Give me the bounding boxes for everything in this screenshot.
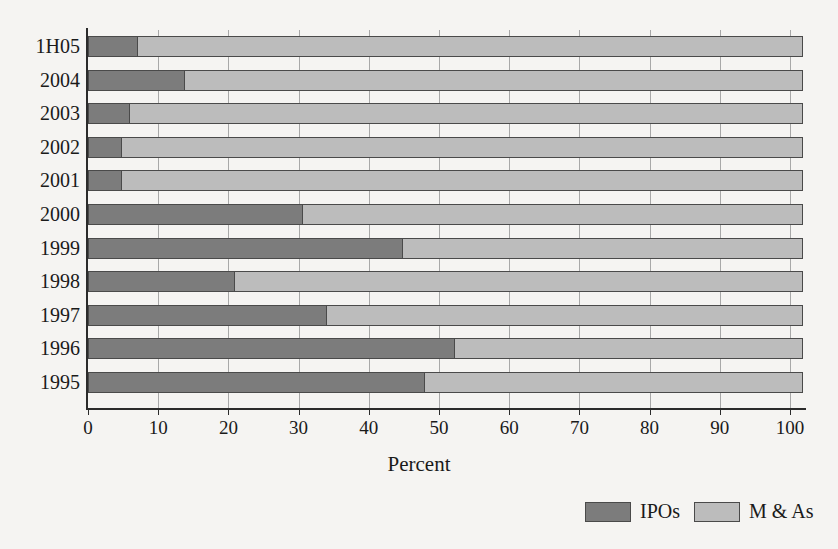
x-tick-label: 80 [620, 417, 680, 439]
y-axis-label: 2003 [2, 102, 80, 125]
bar-row[interactable] [88, 338, 803, 359]
bar-segment-m-and-as[interactable] [302, 204, 803, 225]
legend-item[interactable]: M & As [694, 500, 813, 523]
bar-row[interactable] [88, 238, 803, 259]
bar-segment-m-and-as[interactable] [454, 338, 803, 359]
y-axis-label: 1H05 [2, 35, 80, 58]
legend-label: M & As [749, 500, 813, 523]
x-tick-mark [369, 408, 370, 415]
x-tick-label: 100 [760, 417, 820, 439]
x-tick-mark [579, 408, 580, 415]
bar-segment-m-and-as[interactable] [129, 103, 803, 124]
bar-row[interactable] [88, 36, 803, 57]
x-tick-mark [790, 408, 791, 415]
x-tick-label: 40 [339, 417, 399, 439]
bar-segment-m-and-as[interactable] [137, 36, 803, 57]
bar-row[interactable] [88, 70, 803, 91]
bar-segment-m-and-as[interactable] [402, 238, 803, 259]
x-tick-mark [650, 408, 651, 415]
x-tick-label: 30 [269, 417, 329, 439]
bar-segment-ipos[interactable] [88, 70, 185, 91]
bar-segment-ipos[interactable] [88, 204, 303, 225]
bar-segment-ipos[interactable] [88, 238, 403, 259]
bar-row[interactable] [88, 204, 803, 225]
y-axis-label: 2002 [2, 136, 80, 159]
bar-segment-m-and-as[interactable] [326, 305, 803, 326]
legend-label: IPOs [640, 500, 680, 523]
bar-row[interactable] [88, 137, 803, 158]
bar-row[interactable] [88, 271, 803, 292]
x-tick-mark [228, 408, 229, 415]
x-axis-line [86, 408, 806, 410]
x-tick-label: 10 [128, 417, 188, 439]
plot-area [88, 30, 806, 408]
bar-row[interactable] [88, 170, 803, 191]
y-axis-label: 2000 [2, 203, 80, 226]
x-tick-mark [509, 408, 510, 415]
y-axis-label: 2004 [2, 69, 80, 92]
bar-segment-m-and-as[interactable] [234, 271, 803, 292]
bar-segment-ipos[interactable] [88, 170, 122, 191]
bar-segment-m-and-as[interactable] [424, 372, 803, 393]
bar-segment-ipos[interactable] [88, 103, 130, 124]
x-tick-label: 50 [409, 417, 469, 439]
x-tick-label: 60 [479, 417, 539, 439]
bar-segment-m-and-as[interactable] [184, 70, 803, 91]
y-axis-label: 1998 [2, 270, 80, 293]
x-tick-mark [88, 408, 89, 415]
x-tick-mark [158, 408, 159, 415]
x-axis-title: Percent [0, 452, 838, 477]
bar-segment-ipos[interactable] [88, 36, 138, 57]
bar-segment-ipos[interactable] [88, 338, 455, 359]
bar-row[interactable] [88, 372, 803, 393]
bar-segment-m-and-as[interactable] [121, 137, 803, 158]
bar-row[interactable] [88, 103, 803, 124]
x-tick-label: 70 [549, 417, 609, 439]
bar-row[interactable] [88, 305, 803, 326]
bar-segment-ipos[interactable] [88, 137, 122, 158]
x-tick-mark [720, 408, 721, 415]
bar-segment-ipos[interactable] [88, 271, 235, 292]
y-axis-label: 1996 [2, 337, 80, 360]
chart-legend: IPOsM & As [585, 500, 813, 523]
x-tick-mark [439, 408, 440, 415]
bar-segment-m-and-as[interactable] [121, 170, 803, 191]
stacked-bar-chart: 0102030405060708090100 1H052004200320022… [0, 0, 838, 549]
bar-segment-ipos[interactable] [88, 305, 327, 326]
legend-swatch [694, 502, 740, 522]
y-axis-label: 1995 [2, 371, 80, 394]
x-tick-label: 20 [198, 417, 258, 439]
legend-swatch [585, 502, 631, 522]
legend-item[interactable]: IPOs [585, 500, 680, 523]
x-tick-mark [299, 408, 300, 415]
x-tick-label: 90 [690, 417, 750, 439]
y-axis-label: 1997 [2, 304, 80, 327]
y-axis-label: 1999 [2, 237, 80, 260]
bar-segment-ipos[interactable] [88, 372, 425, 393]
y-axis-label: 2001 [2, 169, 80, 192]
